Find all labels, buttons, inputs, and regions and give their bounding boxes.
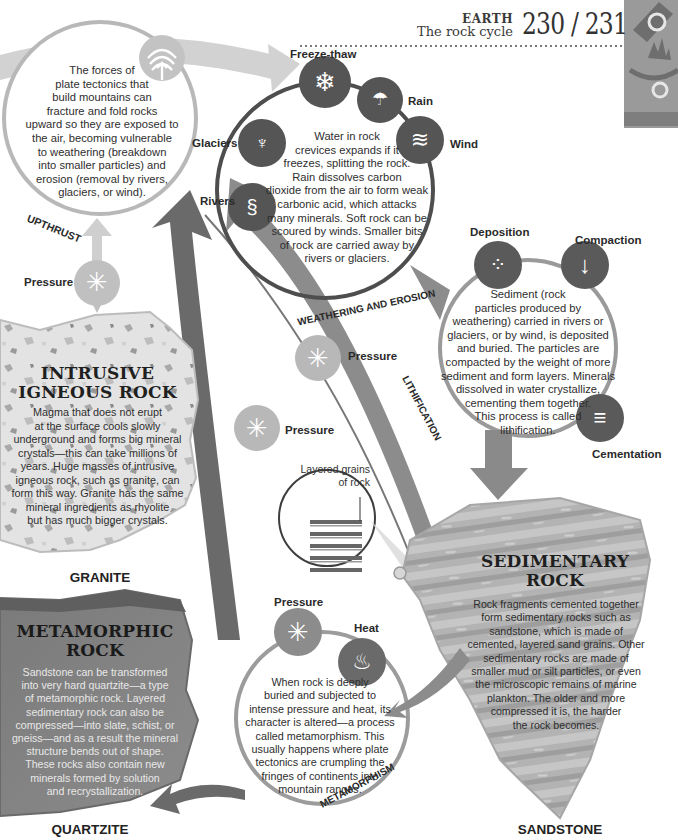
weathering-description: Water in rock crevices expands if it fre…	[262, 130, 432, 266]
pressure-icon: ✳	[284, 618, 312, 646]
upthrust-description: The forces of plate tectonics that build…	[22, 64, 182, 200]
particles-icon: ⁘	[484, 250, 512, 278]
metamorphic-description: Sandstone can be transformed into very h…	[0, 666, 190, 798]
sandstone-label: SANDSTONE	[500, 822, 620, 837]
igneous-description: Magma that does not erupt at the surface…	[0, 406, 195, 528]
pressure-icon: ✳	[243, 414, 271, 442]
page-numbers: 230 / 231	[522, 6, 627, 41]
down-arrow-icon: ↓	[572, 250, 598, 280]
lithification-to-sedimentary-arrow	[470, 430, 528, 500]
pressure-label-upthrust: Pressure	[24, 276, 73, 288]
compaction-label: Compaction	[575, 234, 641, 246]
cementation-label: Cementation	[592, 448, 662, 460]
pressure-agent-label: Pressure	[274, 596, 323, 608]
rain-cloud-icon: ☂	[367, 86, 393, 112]
sedimentary-description: Rock fragments cemented together form se…	[456, 598, 656, 732]
quartzite-label: QUARTZITE	[30, 822, 150, 837]
section-subtitle: The rock cycle	[417, 24, 513, 39]
pressure-icon: ✳	[83, 268, 111, 296]
heat-label: Heat	[354, 622, 379, 634]
igneous-title: INTRUSIVE IGNEOUS ROCK	[0, 364, 195, 402]
pressure-icon: ✳	[304, 344, 332, 372]
flame-icon: ♨	[350, 648, 374, 676]
pressure-label-metamorphic: Pressure	[285, 424, 334, 436]
glaciers-label: Glaciers	[192, 137, 237, 149]
snowflake-icon: ❄	[310, 66, 340, 98]
freeze-thaw-label: Freeze-thaw	[290, 48, 356, 60]
lithification-description: Sediment (rock particles produced by wea…	[440, 288, 616, 438]
rivers-label: Rivers	[200, 195, 235, 207]
rain-label: Rain	[408, 95, 433, 107]
wind-label: Wind	[450, 138, 478, 150]
river-icon: §	[240, 192, 264, 222]
section-header: EARTH The rock cycle	[417, 12, 513, 39]
deposition-label: Deposition	[470, 226, 529, 238]
pressure-label-sedimentary: Pressure	[348, 350, 397, 362]
metamorphic-title: METAMORPHIC ROCK	[0, 622, 190, 660]
igneous-to-upthrust-arrow	[82, 218, 112, 262]
granite-label: GRANITE	[40, 570, 160, 585]
sedimentary-title: SEDIMENTARY ROCK	[460, 552, 650, 590]
microscope-crystal-icon	[624, 0, 678, 128]
layered-grains-caption: Layered grains of rock	[300, 463, 370, 489]
